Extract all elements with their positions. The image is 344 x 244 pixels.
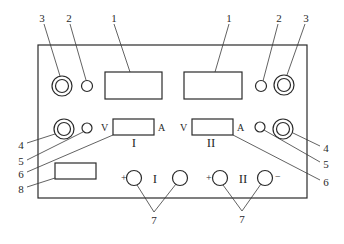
callout-meter-left: 6	[18, 168, 24, 180]
display-left	[105, 72, 162, 99]
knob-middle-right	[273, 119, 293, 139]
knob-top-right	[274, 75, 294, 95]
meter-left-voltage-label: V	[101, 122, 109, 133]
terminal-left-channel-label: I	[153, 171, 157, 186]
callout-lamp-middle-left: 5	[18, 155, 24, 167]
callout-switch: 8	[18, 183, 24, 195]
meter-right-channel-label: II	[207, 135, 216, 150]
indicator-lamp-middle-right	[255, 122, 265, 132]
callout-knob-top-right: 3	[303, 12, 309, 24]
display-right	[184, 72, 242, 99]
meter-left	[113, 119, 154, 135]
panel-diagram: V A V A I II + I + II −	[0, 0, 344, 244]
callout-lamp-top-left: 2	[66, 12, 72, 24]
meter-left-channel-label: I	[132, 135, 136, 150]
terminal-right-plus-sign: +	[206, 172, 212, 183]
callout-meter-right: 6	[323, 176, 329, 188]
switch	[55, 163, 96, 179]
leader-lines	[27, 24, 320, 212]
terminal-left-plus	[127, 171, 142, 186]
diagram-canvas: V A V A I II + I + II −	[0, 0, 344, 244]
meter-right-voltage-label: V	[180, 122, 188, 133]
terminal-right-minus	[258, 171, 273, 186]
callout-terminals-left: 7	[151, 214, 157, 226]
callout-lamp-middle-right: 5	[323, 158, 329, 170]
callout-display-left: 1	[111, 12, 117, 24]
callout-display-right: 1	[226, 12, 232, 24]
terminal-right-minus-sign: −	[275, 171, 281, 182]
meter-right	[192, 119, 233, 135]
knob-top-left	[52, 76, 72, 96]
terminal-left-minus	[173, 171, 188, 186]
callout-knob-middle-left: 4	[18, 139, 24, 151]
terminal-left-plus-sign: +	[121, 172, 127, 183]
indicator-lamp-top-left	[82, 81, 93, 92]
indicator-lamp-middle-left	[82, 123, 92, 133]
callout-knob-middle-right: 4	[323, 142, 329, 154]
callout-knob-top-left: 3	[39, 12, 45, 24]
callout-lamp-top-right: 2	[276, 12, 282, 24]
meter-left-current-label: A	[158, 122, 166, 133]
terminal-right-plus	[213, 171, 228, 186]
meter-right-current-label: A	[237, 122, 245, 133]
knob-middle-left	[54, 119, 74, 139]
indicator-lamp-top-right	[256, 81, 267, 92]
terminal-right-channel-label: II	[239, 171, 248, 186]
callout-terminals-right: 7	[239, 213, 245, 225]
